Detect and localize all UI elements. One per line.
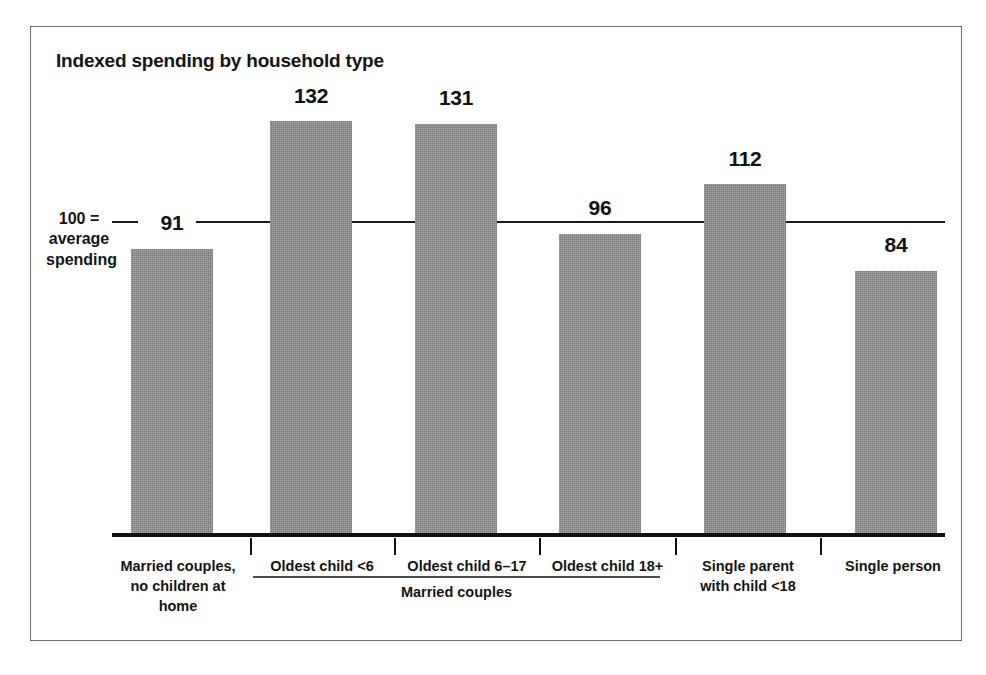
chart-root: Indexed spending by household type 100 =…	[0, 0, 986, 675]
axis-annotation-100-average-spending: 100 = average spending	[46, 209, 112, 270]
category-label-single-person: Single person	[823, 556, 963, 576]
category-label-line-1: Oldest child 6–17	[397, 556, 537, 576]
axis-annotation-line-3: spending	[46, 250, 112, 270]
axis-tick-separator-5	[820, 538, 822, 555]
axis-annotation-line-1: 100 =	[46, 209, 112, 229]
category-label-single-parent-with-child-under-18: Single parent with child <18	[678, 556, 818, 596]
category-label-line-1: Single person	[823, 556, 963, 576]
value-label-married-couples-no-children: 91	[131, 211, 213, 235]
axis-tick-separator-2	[394, 538, 396, 555]
category-label-line-1: Oldest child 18+	[542, 556, 673, 576]
axis-tick-separator-1	[250, 538, 252, 555]
category-label-oldest-child-18-plus: Oldest child 18+	[542, 556, 673, 576]
bar-oldest-child-under-6	[270, 121, 352, 535]
category-label-line-2: no children at home	[112, 576, 244, 616]
plot-area: 100 = average spending 91 132 131 96 112…	[0, 0, 986, 675]
axis-annotation-line-2: average	[46, 229, 112, 249]
category-label-line-1: Oldest child <6	[253, 556, 391, 576]
group-bracket-label-married-couples: Married couples	[253, 584, 660, 600]
value-label-single-parent-with-child-under-18: 112	[704, 147, 786, 171]
x-axis-baseline	[112, 533, 945, 537]
value-label-oldest-child-6-17: 131	[415, 86, 497, 110]
value-label-oldest-child-under-6: 132	[270, 84, 352, 108]
category-label-married-couples-no-children: Married couples, no children at home	[112, 556, 244, 616]
category-label-line-2: with child <18	[678, 576, 818, 596]
category-label-line-1: Single parent	[678, 556, 818, 576]
axis-tick-separator-3	[539, 538, 541, 555]
bar-married-couples-no-children	[131, 249, 213, 535]
category-label-oldest-child-under-6: Oldest child <6	[253, 556, 391, 576]
value-label-single-person: 84	[855, 233, 937, 257]
group-bracket-line-married-couples	[253, 576, 660, 578]
axis-tick-separator-4	[675, 538, 677, 555]
bar-oldest-child-18-plus	[559, 234, 641, 535]
bar-oldest-child-6-17	[415, 124, 497, 535]
category-label-oldest-child-6-17: Oldest child 6–17	[397, 556, 537, 576]
bar-single-parent-with-child-under-18	[704, 184, 786, 535]
bar-single-person	[855, 271, 937, 535]
value-label-oldest-child-18-plus: 96	[559, 196, 641, 220]
category-label-line-1: Married couples,	[112, 556, 244, 576]
